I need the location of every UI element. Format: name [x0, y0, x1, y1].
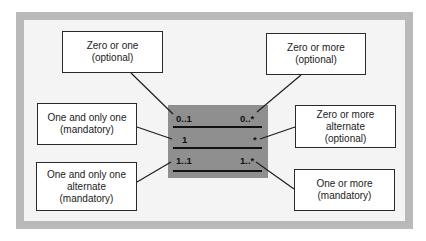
callout-text: (optional)	[287, 54, 345, 66]
association-line-1	[173, 126, 262, 128]
multiplicity-zero-or-one: 0..1	[176, 114, 192, 124]
callout-text: One or more	[316, 178, 372, 190]
multiplicity-one-to-one: 1..1	[176, 156, 192, 166]
callout-one-and-only-one: One and only one (mandatory)	[37, 103, 137, 145]
callout-text: (mandatory)	[47, 193, 126, 205]
association-line-3	[173, 170, 262, 172]
association-line-2	[173, 147, 262, 149]
callout-text: (mandatory)	[48, 124, 127, 136]
callout-text: (optional)	[87, 52, 139, 64]
callout-text: One and only one	[47, 169, 126, 181]
multiplicity-zero-or-more: 0..*	[240, 114, 254, 124]
callout-zero-or-one: Zero or one (optional)	[62, 31, 163, 73]
callout-text: alternate	[47, 181, 126, 193]
callout-zero-or-more-alternate: Zero or more alternate (optional)	[295, 105, 396, 148]
callout-text: Zero or one	[87, 40, 139, 52]
callout-text: Zero or more	[317, 109, 375, 121]
callout-text: (optional)	[317, 133, 375, 145]
callout-one-or-more: One or more (mandatory)	[294, 169, 395, 211]
multiplicity-many: *	[253, 135, 257, 145]
callout-zero-or-more: Zero or more (optional)	[266, 33, 366, 75]
callout-text: (mandatory)	[316, 190, 372, 202]
callout-text: alternate	[317, 121, 375, 133]
callout-text: Zero or more	[287, 42, 345, 54]
callout-one-alternate: One and only one alternate (mandatory)	[36, 162, 137, 211]
multiplicity-one-or-more: 1..*	[240, 156, 254, 166]
multiplicity-one: 1	[182, 135, 187, 145]
callout-text: One and only one	[48, 112, 127, 124]
